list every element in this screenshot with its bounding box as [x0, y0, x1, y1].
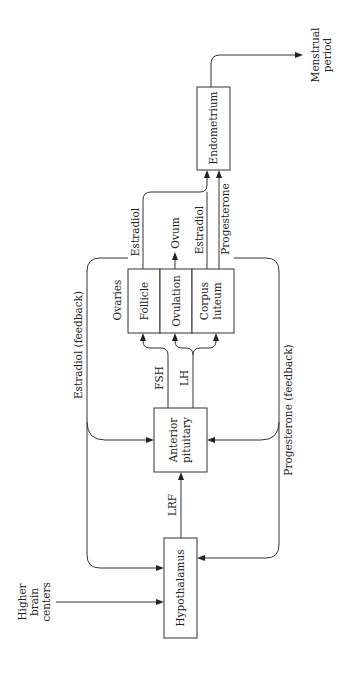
svg-text:centers: centers	[40, 582, 52, 622]
arrowhead	[295, 52, 303, 58]
arrowhead	[178, 472, 184, 480]
progesterone-feedback-label: Progesterone (feedback)	[282, 344, 294, 475]
arrowhead	[146, 437, 154, 443]
hypothalamus-label: Hypothalamus	[174, 549, 186, 626]
menstrual-label-line1: Menstrual	[309, 27, 321, 82]
ovaries-label: Ovaries	[111, 280, 123, 321]
estradiol-feedback-label: Estradiol (feedback)	[72, 291, 84, 399]
svg-text:brain: brain	[28, 588, 40, 616]
lrf-label: LRF	[166, 494, 178, 516]
arrowhead	[207, 437, 215, 443]
arrowhead	[140, 333, 146, 341]
progesterone-label: Progesterone	[219, 183, 231, 254]
lh-label: LH	[178, 370, 190, 386]
corpus-luteum-label-line2: luteum	[211, 282, 223, 319]
progesterone-feedback-branch	[213, 422, 279, 440]
corpus-luteum-label-line1: Corpus	[198, 282, 210, 320]
fsh-label: FSH	[153, 366, 165, 390]
estradiol-feedback-branch	[87, 422, 148, 440]
menstrual-arrow	[211, 55, 296, 87]
arrowhead	[213, 333, 219, 341]
menstrual-label-line2: period	[321, 38, 333, 73]
pituitary-label-line1: Anterior	[167, 417, 179, 463]
lh-branch	[193, 339, 216, 355]
arrowhead	[156, 565, 164, 571]
arrowhead	[197, 555, 205, 561]
arrowhead	[156, 599, 164, 605]
estradiol-corpus-label: Estradiol	[193, 205, 205, 254]
higher-brain-centers-label: Higher brain centers	[16, 582, 52, 622]
arrowhead	[172, 252, 178, 260]
ovum-label: Ovum	[169, 217, 181, 248]
svg-text:Higher: Higher	[16, 582, 28, 620]
estradiol-follicle-label: Estradiol	[129, 207, 141, 256]
arrowhead	[172, 333, 178, 341]
arrowhead	[204, 170, 210, 178]
ovulation-label: Ovulation	[170, 275, 182, 327]
hormone-cycle-diagram: Higher brain centers Hypothalamus LRF An…	[0, 0, 343, 698]
follicle-label: Follicle	[138, 282, 150, 321]
arrowhead	[216, 170, 222, 178]
endometrium-label: Endometrium	[207, 91, 219, 164]
pituitary-label-line2: pituitary	[180, 417, 192, 463]
